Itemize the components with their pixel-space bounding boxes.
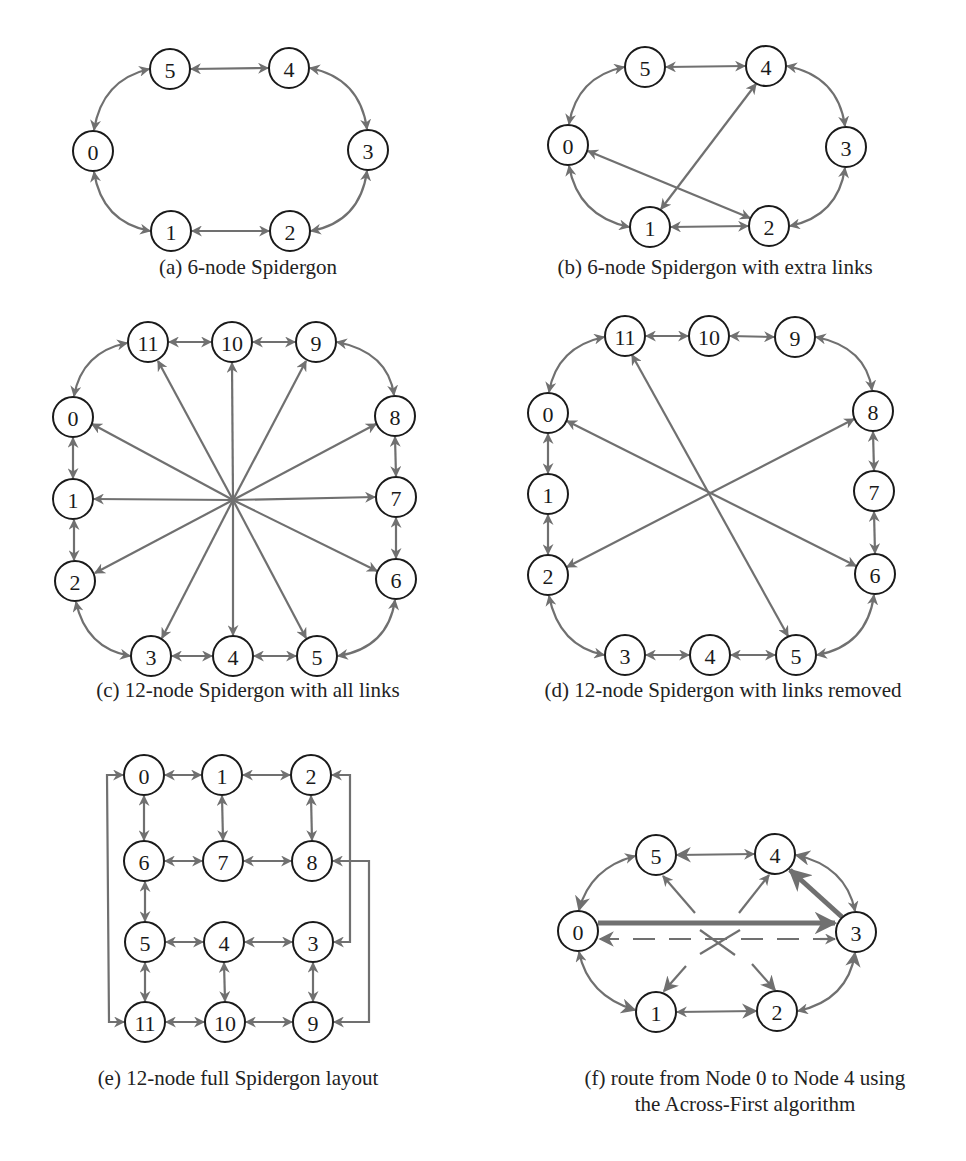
- node-d-0: 0: [528, 393, 568, 433]
- node-f-0: 0: [558, 911, 598, 951]
- node-a-4: 4: [269, 48, 309, 88]
- svg-text:5: 5: [640, 56, 651, 81]
- node-a-1: 1: [151, 211, 191, 251]
- svg-text:11: 11: [137, 331, 158, 356]
- svg-text:8: 8: [390, 405, 401, 430]
- svg-text:1: 1: [543, 483, 554, 508]
- grid-edges-e: [107, 775, 369, 1022]
- panel-b: 0 1 2 3 4 5: [548, 46, 866, 247]
- node-e-7: 7: [203, 841, 243, 881]
- caption-d: (d) 12-node Spidergon with links removed: [528, 677, 918, 703]
- node-b-0: 0: [548, 125, 588, 165]
- svg-text:4: 4: [761, 55, 772, 80]
- panel-f: 0 1 2 3 4 5: [558, 834, 876, 1032]
- edge-5-6: [338, 600, 395, 656]
- node-c-11: 11: [128, 322, 168, 362]
- spoke-3: [162, 500, 233, 638]
- svg-text:3: 3: [620, 644, 631, 669]
- svg-text:0: 0: [543, 402, 554, 427]
- panel-d: 0 1 2 3 4 5 6 7 8 9 10 11: [528, 316, 895, 675]
- edge-x-5: [663, 876, 695, 913]
- node-c-9: 9: [296, 322, 336, 362]
- node-d-4: 4: [690, 635, 730, 675]
- edge-0-5: [569, 67, 624, 124]
- svg-text:10: 10: [214, 1011, 236, 1036]
- edge-2-8: [311, 796, 312, 840]
- node-c-10: 10: [212, 322, 252, 362]
- node-d-1: 1: [528, 474, 568, 514]
- svg-text:1: 1: [166, 220, 177, 245]
- node-a-2: 2: [270, 211, 310, 251]
- node-c-1: 1: [53, 479, 93, 519]
- svg-text:11: 11: [134, 1011, 155, 1036]
- svg-text:5: 5: [651, 844, 662, 869]
- svg-text:3: 3: [851, 921, 862, 946]
- svg-text:8: 8: [868, 400, 879, 425]
- spoke-5: [233, 500, 306, 638]
- svg-text:7: 7: [869, 480, 880, 505]
- svg-text:11: 11: [614, 325, 635, 350]
- svg-text:4: 4: [284, 57, 295, 82]
- node-e-2: 2: [291, 755, 331, 795]
- node-b-3: 3: [826, 127, 866, 167]
- caption-a: (a) 6-node Spidergon: [148, 254, 348, 280]
- spoke-1: [94, 499, 233, 500]
- node-b-5: 5: [625, 47, 665, 87]
- node-d-10: 10: [689, 316, 729, 356]
- svg-text:9: 9: [311, 331, 322, 356]
- svg-text:9: 9: [308, 1011, 319, 1036]
- edge-x-4: [739, 875, 769, 913]
- svg-text:1: 1: [651, 1001, 662, 1026]
- svg-text:6: 6: [391, 568, 402, 593]
- node-b-4: 4: [746, 46, 786, 86]
- edge-4-3: [310, 68, 367, 129]
- node-d-6: 6: [855, 554, 895, 594]
- svg-text:9: 9: [790, 326, 801, 351]
- svg-text:0: 0: [139, 764, 150, 789]
- edge-x-2: [752, 964, 775, 990]
- svg-text:6: 6: [139, 850, 150, 875]
- svg-text:4: 4: [705, 644, 716, 669]
- svg-text:1: 1: [217, 764, 228, 789]
- panel-c: 0 1 2 3 4 5 6 7 8 9 10 11: [53, 322, 416, 676]
- node-e-10: 10: [205, 1002, 245, 1042]
- ring-edges-d: [548, 336, 875, 655]
- spokes-c: [92, 361, 377, 638]
- svg-text:5: 5: [165, 58, 176, 83]
- spidergon-figure: 0 1 2 3 4 5 0 1 2 3 4 5: [0, 0, 966, 1161]
- edge-2-3: [790, 168, 845, 226]
- edge-7-6: [874, 512, 875, 553]
- node-a-0: 0: [73, 131, 113, 171]
- svg-text:3: 3: [146, 645, 157, 670]
- node-f-1: 1: [636, 992, 676, 1032]
- edges-f: [579, 854, 855, 1012]
- node-e-11: 11: [125, 1002, 165, 1042]
- edge-11-5: [632, 355, 788, 636]
- caption-f: (f) route from Node 0 to Node 4 using th…: [565, 1065, 925, 1117]
- spoke-9: [233, 361, 306, 500]
- spoke-10: [232, 363, 233, 500]
- svg-text:5: 5: [140, 931, 151, 956]
- node-c-7: 7: [376, 477, 416, 517]
- svg-text:2: 2: [764, 215, 775, 240]
- svg-text:0: 0: [573, 920, 584, 945]
- edge-0-5: [579, 856, 635, 910]
- node-c-6: 6: [376, 559, 416, 599]
- svg-text:5: 5: [791, 644, 802, 669]
- svg-text:7: 7: [218, 850, 229, 875]
- route-3-4: [790, 870, 842, 917]
- svg-text:4: 4: [219, 931, 230, 956]
- edge-11-0: [549, 337, 604, 392]
- node-c-2: 2: [55, 561, 95, 601]
- edge-9-8: [337, 342, 394, 395]
- svg-text:4: 4: [770, 843, 781, 868]
- edges-b: [569, 66, 845, 227]
- edge-8-7: [395, 437, 396, 476]
- svg-text:7: 7: [391, 486, 402, 511]
- edge-x-1: [664, 966, 686, 991]
- edge-1-7: [222, 796, 223, 840]
- node-f-5: 5: [636, 835, 676, 875]
- node-c-4: 4: [213, 636, 253, 676]
- node-c-8: 8: [375, 396, 415, 436]
- edge-2-3: [76, 602, 130, 656]
